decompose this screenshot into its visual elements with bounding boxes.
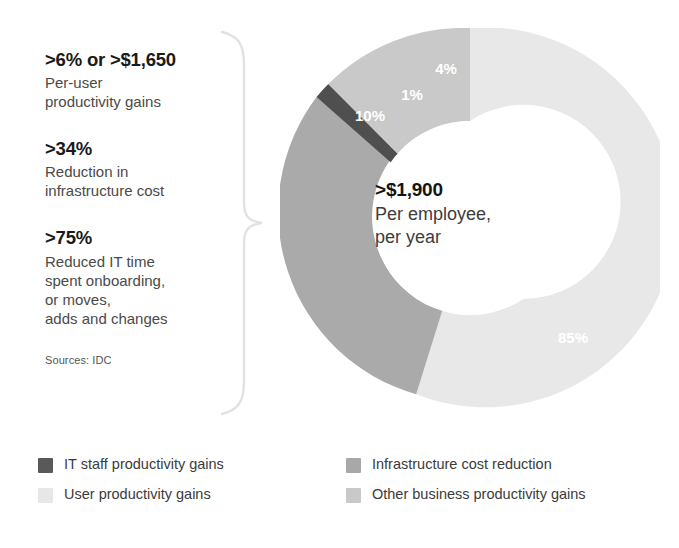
legend-swatch-icon	[38, 458, 53, 473]
center-subtitle: Per employee, per year	[375, 203, 565, 250]
legend-label: User productivity gains	[64, 486, 211, 503]
legend-label: Other business productivity gains	[372, 486, 586, 503]
stat-description: Reduced IT time spent onboarding, or mov…	[45, 252, 245, 328]
slice-label-infrastructure: 10%	[355, 107, 385, 124]
chart-legend: IT staff productivity gains Infrastructu…	[38, 450, 648, 510]
legend-item-it-staff-productivity[interactable]: IT staff productivity gains	[38, 450, 330, 480]
stat-description: Reduction in infrastructure cost	[45, 162, 245, 200]
legend-item-other-business-productivity-gains[interactable]: Other business productivity gains	[346, 480, 638, 510]
stat-block: >75% Reduced IT time spent onboarding, o…	[45, 226, 245, 327]
slice-label-it-staff: 1%	[401, 86, 423, 103]
slice-label-other-business: 4%	[435, 60, 457, 77]
curly-brace	[218, 30, 266, 416]
stat-block: >6% or >$1,650 Per-user productivity gai…	[45, 48, 245, 111]
legend-label: IT staff productivity gains	[64, 456, 224, 473]
legend-label: Infrastructure cost reduction	[372, 456, 552, 473]
stat-value: >34%	[45, 137, 245, 160]
legend-swatch-icon	[346, 488, 361, 503]
legend-swatch-icon	[38, 488, 53, 503]
slice-label-user-productivity: 85%	[558, 329, 588, 346]
center-value: >$1,900	[375, 178, 565, 203]
legend-item-user-productivity-gains[interactable]: User productivity gains	[38, 480, 330, 510]
stat-block: >34% Reduction in infrastructure cost	[45, 137, 245, 200]
stats-column: >6% or >$1,650 Per-user productivity gai…	[45, 48, 245, 366]
legend-swatch-icon	[346, 458, 361, 473]
infographic-canvas: >6% or >$1,650 Per-user productivity gai…	[0, 0, 679, 548]
donut-center-label: >$1,900 Per employee, per year	[375, 178, 565, 249]
stat-value: >6% or >$1,650	[45, 48, 245, 71]
legend-item-infrastructure-cost-reduction[interactable]: Infrastructure cost reduction	[346, 450, 638, 480]
stat-description: Per-user productivity gains	[45, 73, 245, 111]
sources-note: Sources: IDC	[45, 354, 245, 366]
stat-value: >75%	[45, 226, 245, 249]
brace-path	[222, 32, 262, 414]
